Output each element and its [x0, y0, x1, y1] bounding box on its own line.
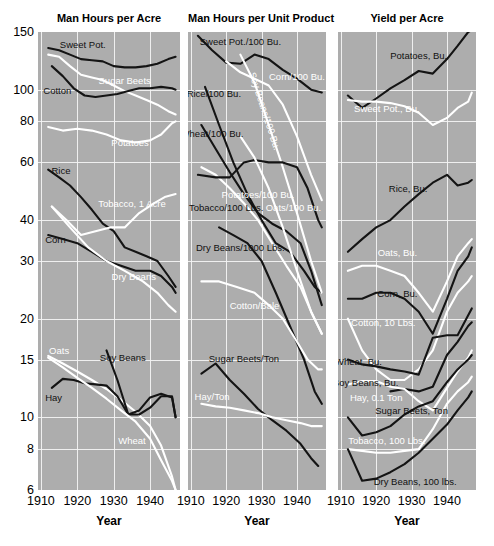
- series-line: [52, 66, 176, 97]
- series-line: [201, 404, 321, 426]
- series-line: [348, 32, 472, 108]
- panel-man-hours-per-unit-product: Sweet Pot./100 Bu.Corn/100 Bu.Rice/100 B…: [188, 32, 326, 490]
- series-line: [348, 308, 472, 374]
- y-tick-label: 8: [27, 442, 34, 456]
- series-line: [219, 227, 322, 403]
- series-lines: [38, 32, 180, 490]
- series-line: [348, 247, 472, 333]
- series-line: [52, 207, 176, 312]
- panel-yield-per-acre: Potatoes, Bu.Sweet Pot., Bu.Rice, Bu.Oat…: [338, 32, 476, 490]
- x-tick-label: 1910: [327, 494, 355, 508]
- y-tick-label: 20: [20, 312, 34, 326]
- y-tick-label: 15: [20, 353, 34, 367]
- y-tick-label: 150: [13, 25, 34, 39]
- series-line: [48, 358, 175, 490]
- y-tick-label: 40: [20, 213, 34, 227]
- series-line: [348, 93, 472, 125]
- y-tick-label: 10: [20, 410, 34, 424]
- series-line: [198, 36, 322, 93]
- x-tick-label: 1940: [433, 494, 461, 508]
- series-line: [201, 364, 318, 467]
- figure-root: 1501008060403020151086 Sweet Pot.Sugar B…: [0, 0, 494, 546]
- panel-title-1: Man Hours per Unit Product: [188, 12, 326, 24]
- series-line: [48, 121, 175, 142]
- panel-title-2: Yield per Acre: [338, 12, 476, 24]
- y-tick-label: 30: [20, 254, 34, 268]
- series-line: [348, 175, 472, 252]
- series-line: [52, 379, 176, 417]
- series-lines: [188, 32, 326, 490]
- series-line: [205, 87, 322, 293]
- y-axis-labels: 1501008060403020151086: [0, 0, 38, 546]
- series-line: [348, 350, 472, 410]
- series-line: [348, 391, 472, 480]
- x-tick-label: 1920: [362, 494, 390, 508]
- y-tick-label: 80: [20, 114, 34, 128]
- series-line: [48, 356, 175, 490]
- series-lines: [338, 32, 476, 490]
- x-tick-label: 1930: [398, 494, 426, 508]
- panel-title-0: Man Hours per Acre: [38, 12, 180, 24]
- x-axis-2: 1910192019301940Year: [0, 490, 494, 536]
- panel-man-hours-per-acre: Sweet Pot.Sugar BeetsCottonPotatoesRiceT…: [38, 32, 180, 490]
- y-tick-label: 100: [13, 83, 34, 97]
- y-tick-label: 60: [20, 155, 34, 169]
- x-axis-title: Year: [394, 514, 419, 528]
